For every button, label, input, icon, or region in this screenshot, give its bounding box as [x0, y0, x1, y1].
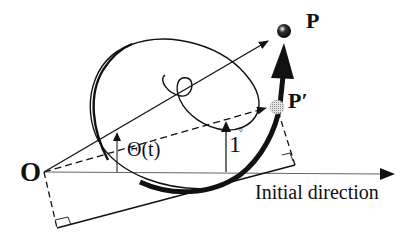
point-p-ball	[277, 24, 291, 38]
trajectory-arrowhead-icon	[271, 43, 294, 79]
initial-direction-label: Initial direction	[255, 182, 379, 202]
projection-rectangle	[44, 114, 295, 228]
origin-label: O	[20, 159, 41, 186]
diagram-canvas: O P P′ Θ(t) 1 ° Initial direction	[0, 0, 414, 245]
initial-direction-axis	[44, 168, 395, 180]
degree-mark: °	[239, 128, 243, 138]
diagram-svg	[0, 0, 414, 245]
point-p-prime-ball	[270, 100, 284, 114]
theta-label: Θ(t)	[127, 139, 160, 159]
point-p-prime-label: P′	[288, 90, 308, 112]
point-p-label: P	[306, 10, 319, 32]
spiral-trajectory	[90, 39, 294, 192]
